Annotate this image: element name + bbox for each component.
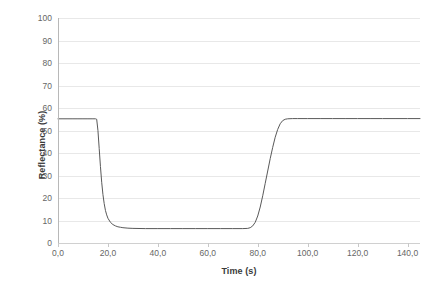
y-tick-label-20: 20 <box>6 194 52 203</box>
series-line-reflectance <box>58 18 420 243</box>
y-tick-label-10: 10 <box>6 216 52 225</box>
x-tick-label-80: 80,0 <box>249 249 266 258</box>
x-tickmark-140 <box>408 243 409 247</box>
x-tick-label-40: 40,0 <box>150 249 167 258</box>
y-tick-label-80: 80 <box>6 59 52 68</box>
x-tickmark-120 <box>358 243 359 247</box>
x-tick-label-100: 100,0 <box>297 249 318 258</box>
y-tick-label-70: 70 <box>6 81 52 90</box>
x-axis-title: Time (s) <box>58 266 420 276</box>
y-tick-label-30: 30 <box>6 171 52 180</box>
x-tickmark-20 <box>108 243 109 247</box>
y-tick-label-90: 90 <box>6 36 52 45</box>
x-tickmark-100 <box>308 243 309 247</box>
plot-area <box>58 18 420 243</box>
x-tickmark-40 <box>158 243 159 247</box>
x-tick-label-60: 60,0 <box>200 249 217 258</box>
y-tick-label-50: 50 <box>6 126 52 135</box>
y-tick-label-40: 40 <box>6 149 52 158</box>
x-tick-label-0: 0,0 <box>52 249 64 258</box>
y-axis-line <box>58 18 59 244</box>
x-tick-label-120: 120,0 <box>347 249 368 258</box>
y-axis-tick-labels: 1009080706050403020100 <box>0 18 52 243</box>
x-axis-tick-labels: 0,020,040,060,080,0100,0120,0140,0 <box>58 249 420 263</box>
x-tickmark-0 <box>58 243 59 247</box>
y-tick-label-100: 100 <box>6 14 52 23</box>
x-tick-label-140: 140,0 <box>397 249 418 258</box>
x-tickmark-60 <box>208 243 209 247</box>
x-tick-label-20: 20,0 <box>100 249 117 258</box>
y-tick-label-0: 0 <box>6 239 52 248</box>
y-tick-label-60: 60 <box>6 104 52 113</box>
reflectance-time-chart: Reflectance (%) 1009080706050403020100 0… <box>0 0 446 289</box>
x-tickmark-80 <box>258 243 259 247</box>
gridline-y-0 <box>58 243 420 244</box>
